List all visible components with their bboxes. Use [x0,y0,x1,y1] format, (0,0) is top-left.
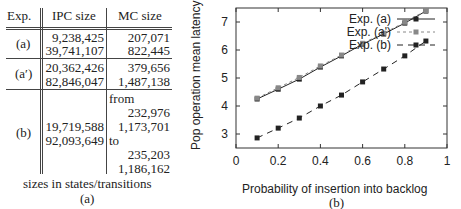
legend-marker [414,30,419,35]
series-lines [255,8,429,140]
y-tick-label: 7 [221,15,228,29]
data-point-marker [255,96,260,101]
mc-value: 822,445 [128,44,170,58]
data-point-marker [297,75,302,80]
x-tick-label: 1 [444,154,451,168]
legend-label: Exp. (b) [349,38,391,52]
table-caption: sizes in states/transitions [23,177,152,191]
y-tick-label: 3 [221,127,228,141]
data-point-marker [360,79,365,84]
ipc-value: 39,741,107 [46,44,105,58]
table-rule [6,58,172,59]
table-rule [6,89,172,90]
mc-value: 235,203 [128,148,170,162]
header-exp: Exp. [7,9,31,23]
table-divider [40,8,41,174]
legend: Exp. (a)Exp. (a')Exp. (b) [347,12,435,52]
row-exp: (a) [16,37,30,51]
row-exp: (b) [16,126,31,140]
legend-label: Exp. (a') [347,25,391,39]
plot-area: 00.20.40.60.8134567 Exp. (a)Exp. (a')Exp… [176,0,461,209]
mc-value: 379,656 [128,61,170,75]
x-tick-label: 0.4 [312,154,329,168]
latency-chart: 00.20.40.60.8134567 Exp. (a)Exp. (a')Exp… [176,0,461,209]
legend-marker [414,43,419,48]
x-tick-label: 0 [233,154,240,168]
table-divider [106,8,107,174]
row-exp: (a′) [15,67,32,81]
mc-value: 1,487,138 [118,75,170,89]
data-point-marker [339,53,344,58]
data-point-marker [276,85,281,90]
data-point-marker [297,116,302,121]
legend-label: Exp. (a) [349,12,391,26]
data-point-marker [339,93,344,98]
data-point-marker [318,104,323,109]
data-point-marker [381,67,386,72]
mc-to-label: to [109,134,119,148]
x-tick-label: 0.2 [270,154,287,168]
table-divider [42,8,43,174]
y-tick-label: 4 [221,99,228,113]
mc-from-label: from [109,92,134,106]
table-rule [6,27,172,28]
data-point-marker [423,8,428,13]
mc-value: 1,173,701 [118,120,170,134]
y-tick-label: 6 [221,43,228,57]
x-tick-label: 0.6 [354,154,371,168]
data-point-marker [276,126,281,131]
header-mc-size: MC size [118,9,162,23]
y-axis-label: Pop operation mean latency [189,1,203,150]
ipc-value: 82,846,047 [46,75,105,89]
x-axis-label: Probability of insertion into backlog [242,182,427,196]
size-table: Exp. IPC size MC size (a) 9,238,425 39,7… [0,0,176,209]
header-ipc-size: IPC size [52,9,96,23]
chart-sublabel: (b) [329,195,344,209]
data-point-marker [402,53,407,58]
table-sublabel: (a) [80,192,94,206]
ipc-value: 19,719,588 [46,120,105,134]
mc-value: 1,186,162 [118,162,170,176]
data-point-marker [318,63,323,68]
x-tick-label: 0.8 [396,154,413,168]
data-point-marker [255,135,260,140]
mc-value: 232,976 [128,106,170,120]
data-point-marker [423,39,428,44]
ipc-value: 20,362,426 [46,61,105,75]
y-tick-label: 5 [221,71,228,85]
plot-frame [236,8,447,148]
ipc-value: 92,093,649 [46,134,105,148]
legend-marker [414,17,419,22]
data-point-marker [402,20,407,25]
